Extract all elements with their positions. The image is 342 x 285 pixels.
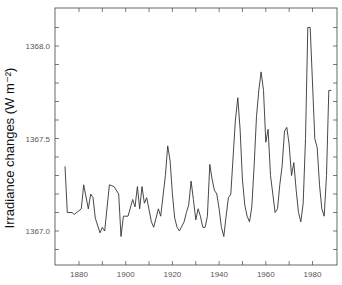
irradiance-series-line <box>65 28 331 237</box>
x-tick-label: 1920 <box>164 270 182 279</box>
x-tick-label: 1880 <box>70 270 88 279</box>
x-axis-ticks: 188019001920194019601980 <box>70 8 322 279</box>
x-tick-label: 1900 <box>117 270 135 279</box>
plot-frame <box>55 8 337 265</box>
line-chart: 1367.01367.51368.0 188019001920194019601… <box>0 0 342 285</box>
y-tick-label: 1368.0 <box>26 42 51 51</box>
y-axis-label: Irradiance changes (W m⁻²) <box>2 68 17 229</box>
x-tick-label: 1940 <box>210 270 228 279</box>
y-tick-label: 1367.0 <box>26 227 51 236</box>
x-tick-label: 1980 <box>304 270 322 279</box>
y-tick-label: 1367.5 <box>26 135 51 144</box>
x-tick-label: 1960 <box>257 270 275 279</box>
y-axis-ticks: 1367.01367.51368.0 <box>26 28 337 250</box>
